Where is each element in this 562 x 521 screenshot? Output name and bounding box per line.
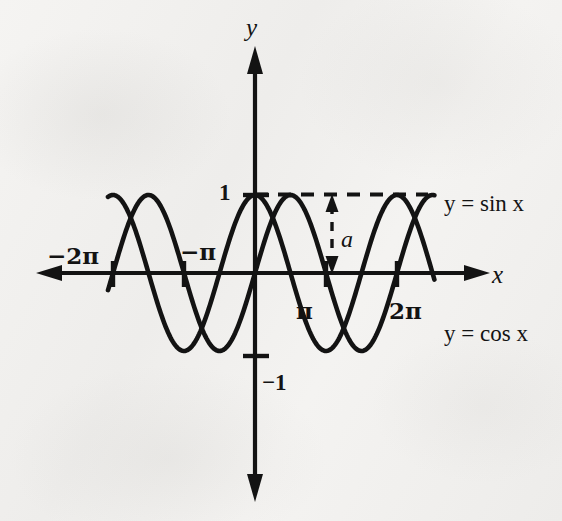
y-tick-label-one: 1 [219,181,231,204]
sine-cosine-graph-figure: y x −2π −π π 2π 1 −1 a y = sin x y = cos… [0,0,562,521]
x-axis [36,265,490,281]
x-axis-label: x [492,262,503,287]
amplitude-label: a [341,227,353,251]
x-tick-label-2pi: 2π [389,299,422,322]
y-axis-label: y [246,15,257,40]
x-tick-label-minus-pi: −π [180,240,216,263]
y-tick-label-minus-one: −1 [262,371,287,394]
x-tick-label-minus-2pi: −2π [47,244,99,267]
x-tick-label-pi: π [296,299,313,322]
cosine-curve-label: y = cos x [444,322,528,345]
sine-curve-label: y = sin x [444,192,524,215]
